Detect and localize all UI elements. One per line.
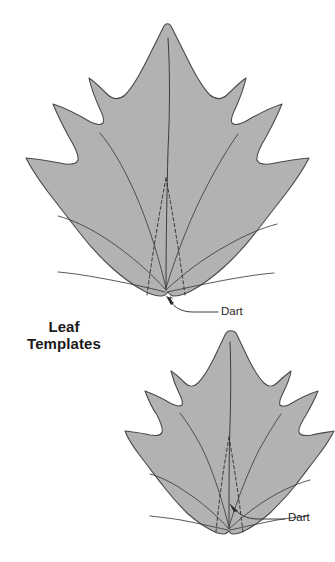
large-leaf-dart-arrowhead-solid: [166, 296, 174, 305]
dart-label-upper: Dart: [221, 305, 243, 317]
caption-line-2: Templates: [8, 335, 120, 352]
large-leaf-dart-leader-line: [170, 301, 218, 312]
caption-block: Leaf Templates: [8, 318, 120, 352]
caption-line-1: Leaf: [8, 318, 120, 335]
small-leaf-group: [125, 331, 334, 534]
large-leaf-group: [26, 24, 309, 312]
leaf-templates-illustration: [0, 0, 335, 562]
dart-label-lower: Dart: [288, 511, 310, 523]
